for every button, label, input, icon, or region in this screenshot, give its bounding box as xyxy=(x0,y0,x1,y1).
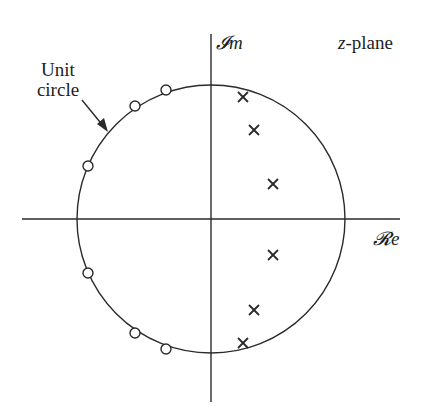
poles-group xyxy=(238,92,278,348)
imaginary-axis-label: 𝓘m xyxy=(216,32,243,54)
pole-marker xyxy=(238,338,248,348)
plane-title-suffix: -plane xyxy=(345,32,392,53)
zero-marker xyxy=(83,161,93,171)
unit-circle-label-line2: circle xyxy=(32,80,84,100)
unit-circle-label: Unit circle xyxy=(32,60,84,100)
real-axis-label: 𝓡e xyxy=(373,228,399,250)
pole-marker xyxy=(249,305,259,315)
zero-marker xyxy=(130,101,140,111)
zero-marker xyxy=(83,268,93,278)
pole-marker xyxy=(268,250,278,260)
zero-marker xyxy=(161,344,171,354)
plane-title: z-plane xyxy=(338,32,393,54)
pole-marker xyxy=(249,125,259,135)
pole-marker xyxy=(268,179,278,189)
zero-marker xyxy=(161,85,171,95)
zero-marker xyxy=(130,328,140,338)
pole-marker xyxy=(238,92,248,102)
unit-circle-label-line1: Unit xyxy=(32,60,84,80)
